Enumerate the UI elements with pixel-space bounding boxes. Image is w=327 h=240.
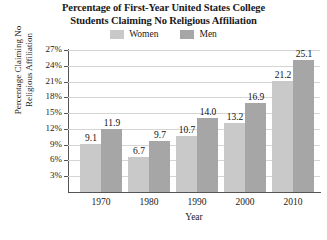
legend-swatch-women bbox=[110, 30, 124, 39]
y-tick-label-wrap: 18% bbox=[33, 92, 62, 101]
legend-label-women: Women bbox=[129, 29, 158, 39]
legend-swatch-men bbox=[180, 30, 194, 39]
y-tick-label-wrap: 15% bbox=[33, 108, 62, 117]
y-tick-label-wrap: 24% bbox=[33, 61, 62, 70]
bar-men-1970 bbox=[101, 129, 122, 192]
bar-men-2000 bbox=[245, 103, 266, 192]
y-tick-label: 6% bbox=[34, 155, 62, 164]
bar-group: 13.216.9 bbox=[224, 50, 266, 192]
y-tick-label-wrap: 27% bbox=[33, 45, 62, 54]
y-tick-label: 18% bbox=[34, 92, 62, 101]
x-tick-label-2010: 2010 bbox=[263, 197, 323, 208]
y-tick-label-wrap: 12% bbox=[33, 124, 62, 133]
plot-area: 9.111.96.79.710.714.013.216.921.225.1 bbox=[68, 50, 320, 192]
y-tick-label: 21% bbox=[34, 77, 62, 86]
bar-men-1980 bbox=[149, 141, 170, 192]
y-tick-label: 12% bbox=[34, 124, 62, 133]
y-tick-label: 15% bbox=[34, 108, 62, 117]
y-tick-label-wrap: 3% bbox=[33, 171, 62, 180]
x-axis-title: Year bbox=[68, 212, 320, 223]
y-tick-label: 27% bbox=[34, 45, 62, 54]
chart-legend: Women Men bbox=[0, 29, 327, 39]
y-tick-label: 24% bbox=[34, 61, 62, 70]
y-tick-label-wrap: 21% bbox=[33, 77, 62, 86]
y-axis-title: Percentage Claiming No Religious Affilia… bbox=[11, 0, 37, 140]
x-axis-line bbox=[68, 192, 321, 193]
y-tick-label: 9% bbox=[34, 140, 62, 149]
bar-women-1980 bbox=[128, 157, 149, 192]
bar-group: 9.111.9 bbox=[80, 50, 122, 192]
y-tick-label-wrap: 9% bbox=[33, 140, 62, 149]
bar-men-2010 bbox=[293, 60, 314, 192]
bar-group: 6.79.7 bbox=[128, 50, 170, 192]
chart-title-line-2: Students Claiming No Religious Affiliati… bbox=[0, 15, 327, 28]
chart-title-line-1: Percentage of First-Year United States C… bbox=[0, 2, 327, 15]
bar-value-label: 11.9 bbox=[95, 118, 129, 128]
bar-women-2000 bbox=[224, 123, 245, 192]
bar-women-1990 bbox=[176, 136, 197, 192]
y-tick-label-wrap: 6% bbox=[33, 155, 62, 164]
bar-value-label: 25.1 bbox=[287, 49, 321, 59]
chart-title: Percentage of First-Year United States C… bbox=[0, 2, 327, 27]
y-axis-title-line-1: Percentage Claiming No bbox=[13, 26, 25, 114]
y-tick-label: 3% bbox=[34, 171, 62, 180]
bar-value-label: 16.9 bbox=[239, 92, 273, 102]
bar-women-2010 bbox=[272, 81, 293, 192]
bar-group: 21.225.1 bbox=[272, 50, 314, 192]
bar-men-1990 bbox=[197, 118, 218, 192]
legend-entry-women: Women bbox=[110, 29, 158, 39]
bar-group: 10.714.0 bbox=[176, 50, 218, 192]
bar-chart: Percentage of First-Year United States C… bbox=[0, 0, 327, 240]
legend-label-men: Men bbox=[199, 29, 216, 39]
legend-entry-men: Men bbox=[180, 29, 216, 39]
bar-women-1970 bbox=[80, 144, 101, 192]
